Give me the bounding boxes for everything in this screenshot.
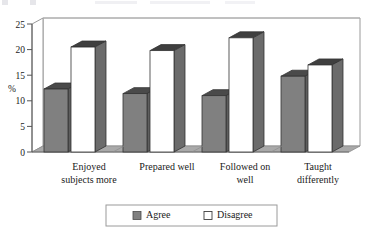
category-label-3-line2: differently (297, 174, 339, 185)
legend-swatch-disagree (204, 212, 212, 220)
category-label-0-line1: Enjoyed (72, 161, 105, 172)
legend: Agree Disagree (106, 205, 277, 226)
category-label-3-line1: Taught (304, 161, 332, 172)
y-axis-title: % (8, 84, 16, 94)
category-label-0-line2: subjects more (61, 174, 117, 185)
y-tick-label-25: 25 (16, 20, 26, 30)
x-axis-category-labels: Enjoyed subjects more Prepared well Foll… (61, 161, 339, 185)
bar-disagree-0 (71, 41, 106, 152)
bar-disagree-1 (150, 45, 185, 152)
y-tick-label-15: 15 (16, 71, 26, 81)
chart-figure: 0 5 10 15 20 25 % Enjoy (0, 0, 372, 238)
bar-disagree-3 (308, 59, 343, 152)
y-axis: 0 5 10 15 20 25 % (8, 20, 32, 158)
legend-swatch-agree (133, 212, 141, 220)
legend-label-disagree: Disagree (217, 209, 253, 220)
y-tick-label-20: 20 (16, 45, 26, 55)
y-tick-label-0: 0 (20, 148, 25, 158)
category-label-1-line1: Prepared well (139, 161, 194, 172)
bar-disagree-2 (229, 32, 264, 152)
category-label-2-line1: Followed on (220, 161, 270, 172)
legend-label-agree: Agree (146, 209, 171, 220)
category-label-2-line2: well (236, 174, 253, 185)
bar-chart-canvas: 0 5 10 15 20 25 % Enjoy (0, 0, 372, 238)
y-tick-label-10: 10 (16, 96, 26, 106)
y-tick-label-5: 5 (20, 122, 25, 132)
cropped-text-remnant (2, 0, 255, 5)
